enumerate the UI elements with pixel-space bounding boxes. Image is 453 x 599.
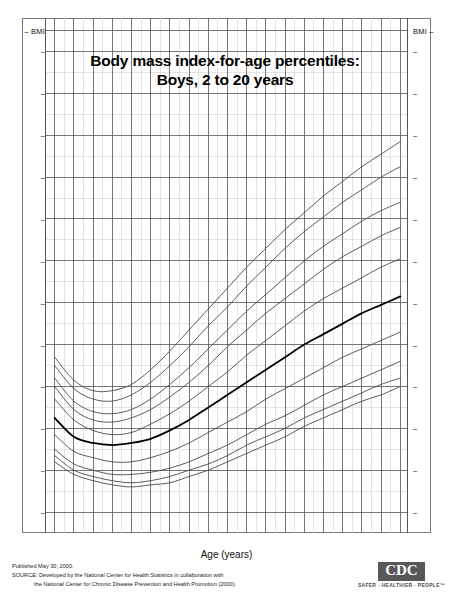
y-tick-right-34: – xyxy=(408,47,436,56)
y-tick-right-26: – xyxy=(408,214,436,223)
title-line-2: Boys, 2 to 20 years xyxy=(50,71,400,90)
y-tick-right-30: – xyxy=(408,131,436,140)
y-tick-right-18: – xyxy=(408,382,436,391)
y-tick-left-32: – xyxy=(22,89,45,98)
y-tick-left-18: – xyxy=(22,382,45,391)
y-tick-right-32: – xyxy=(408,89,436,98)
source-line-1: SOURCE: Developed by the National Center… xyxy=(12,572,223,578)
curve-90th xyxy=(55,202,401,414)
y-tick-right-12: – xyxy=(408,508,436,517)
y-tick-left-26: – xyxy=(22,214,45,223)
y-tick-left-16: – xyxy=(22,424,45,433)
y-tick-right-16: – xyxy=(408,424,436,433)
y-tick-left-20: – xyxy=(22,340,45,349)
cdc-logo-block: CDC SAFER · HEALTHIER · PEOPLE™ xyxy=(358,561,445,588)
bmi-growth-chart-page: Body mass index-for-age percentiles: Boy… xyxy=(0,0,453,599)
plot-inner xyxy=(46,18,407,533)
y-tick-left-34: – xyxy=(22,47,45,56)
page-title: Body mass index-for-age percentiles: Boy… xyxy=(50,52,400,90)
curve-85th xyxy=(55,227,401,422)
title-line-1: Body mass index-for-age percentiles: xyxy=(90,52,359,69)
plot-area xyxy=(45,18,408,533)
y-tick-left-24: – xyxy=(22,256,45,265)
footer: Published May 30, 2000. SOURCE: Develope… xyxy=(0,560,453,599)
source-line-2: the National Center for Chronic Disease … xyxy=(12,580,236,589)
y-tick-right-24: – xyxy=(408,256,436,265)
y-tick-left-28: – xyxy=(22,173,45,182)
published-date: Published May 30, 2000. xyxy=(12,563,74,569)
y-tick-right-20: – xyxy=(408,340,436,349)
y-tick-right-22: – xyxy=(408,298,436,307)
curve-25th xyxy=(55,332,401,462)
footer-source-text: Published May 30, 2000. SOURCE: Develope… xyxy=(12,562,236,590)
percentile-curves xyxy=(46,18,407,533)
y-tick-left-30: – xyxy=(22,131,45,140)
y-axis-header-right: BMI – xyxy=(408,26,436,35)
curve-50th xyxy=(55,296,401,445)
y-tick-left-14: – xyxy=(22,466,45,475)
y-axis-header-left: – BMI xyxy=(22,26,45,35)
cdc-tagline: SAFER · HEALTHIER · PEOPLE™ xyxy=(358,583,445,588)
y-tick-right-28: – xyxy=(408,173,436,182)
y-tick-right-14: – xyxy=(408,466,436,475)
curve-95th xyxy=(55,167,401,402)
curve-10th xyxy=(55,361,401,474)
y-tick-left-22: – xyxy=(22,298,45,307)
cdc-logo: CDC xyxy=(378,562,425,581)
x-axis-title: Age (years) xyxy=(0,549,453,560)
y-tick-left-12: – xyxy=(22,508,45,517)
